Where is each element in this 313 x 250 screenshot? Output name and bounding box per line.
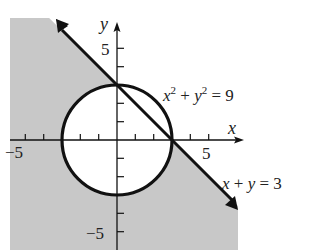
x-tick-label-neg5: −5 [5,143,23,162]
graph-canvas: y x −5 5 5 −5 x2 + y2 = 9 x + y = 3 [0,0,313,250]
x-tick-label-5: 5 [202,144,211,163]
y-axis-label: y [98,14,108,34]
y-tick-label-neg5: −5 [86,224,104,243]
x-axis-label: x [227,118,236,138]
line-equation-label: x + y = 3 [221,174,282,193]
y-tick-label-5: 5 [101,40,110,59]
